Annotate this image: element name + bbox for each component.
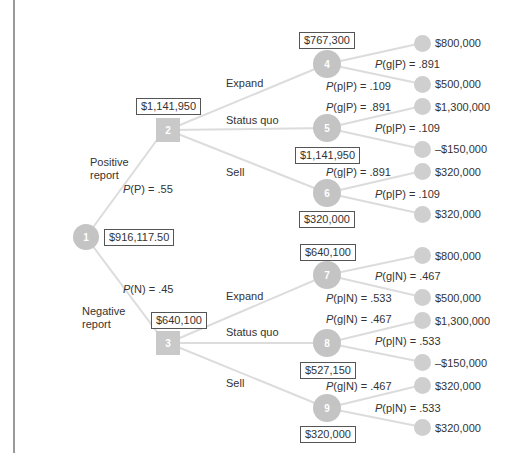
prob-good: P(g|N) = .467: [326, 380, 392, 393]
terminal-node: [414, 206, 431, 223]
payoff-label: $1,300,000: [435, 315, 490, 328]
payoff-label: $320,000: [435, 380, 481, 393]
node-number: 4: [324, 59, 330, 70]
terminal-node: [414, 289, 431, 306]
chance-node-9: 9: [313, 394, 341, 422]
terminal-node: [414, 163, 431, 180]
prob-good: P(g|P) = .891: [326, 166, 391, 179]
ev-box-node-7: $640,100: [300, 244, 356, 261]
prob-poor: P(p|N) = .533: [375, 335, 441, 348]
terminal-node: [414, 354, 431, 371]
node-number: 1: [83, 232, 89, 243]
payoff-label: $800,000: [435, 250, 481, 263]
ev-box-node-3: $640,100: [151, 312, 207, 329]
node-number: 2: [165, 125, 171, 136]
prob-poor: P(p|P) = .109: [375, 188, 440, 201]
payoff-label: $1,300,000: [435, 101, 490, 114]
node-number: 3: [165, 338, 171, 349]
terminal-node: [414, 98, 431, 115]
payoff-label: –$150,000: [435, 357, 487, 370]
positive-report-label: Positive report: [90, 156, 129, 182]
chance-node-7: 7: [313, 261, 341, 289]
payoff-label: $320,000: [435, 422, 481, 435]
node-number: 6: [324, 188, 330, 199]
action-status-quo-label: Status quo: [226, 114, 279, 127]
ev-box-node-1: $916,117.50: [104, 229, 174, 246]
prob-poor: P(p|N) = .533: [375, 402, 441, 415]
action-expand-label: Expand: [226, 290, 263, 303]
terminal-node: [414, 377, 431, 394]
action-expand-label: Expand: [226, 77, 263, 90]
payoff-label: $500,000: [435, 78, 481, 91]
ev-box-node-5: $1,141,950: [295, 147, 360, 164]
terminal-node: [414, 247, 431, 264]
terminal-node: [414, 312, 431, 329]
decision-node-2: 2: [156, 118, 180, 142]
terminal-node: [414, 76, 431, 93]
ev-box-node-6: $320,000: [299, 211, 355, 228]
prob-poor: P(p|N) = .533: [326, 292, 392, 305]
payoff-label: $500,000: [435, 292, 481, 305]
prob-negative: P(N) = .45: [123, 283, 173, 296]
ev-box-node-4: $767,300: [299, 32, 355, 49]
chance-node-5: 5: [313, 114, 341, 142]
prob-good: P(g|N) = .467: [375, 270, 441, 283]
prob-good: P(g|N) = .467: [326, 313, 392, 326]
node-number: 8: [324, 338, 330, 349]
chance-node-6: 6: [313, 179, 341, 207]
terminal-node: [414, 419, 431, 436]
action-status-quo-label: Status quo: [226, 326, 279, 339]
node-number: 5: [324, 123, 330, 134]
prob-good: P(g|P) = .891: [326, 101, 391, 114]
terminal-node: [414, 141, 431, 158]
prob-positive: P(P) = .55: [123, 183, 173, 196]
decision-node-3: 3: [156, 331, 180, 355]
negative-report-label: Negative report: [82, 305, 125, 331]
ev-box-node-8: $527,150: [300, 362, 356, 379]
node-number: 7: [324, 270, 330, 281]
terminal-node: [414, 35, 431, 52]
ev-box-node-2: $1,141,950: [136, 98, 201, 115]
node-number: 9: [324, 403, 330, 414]
chance-node-8: 8: [313, 329, 341, 357]
payoff-label: –$150,000: [435, 143, 487, 156]
payoff-label: $320,000: [435, 208, 481, 221]
chance-node-4: 4: [313, 50, 341, 78]
prob-poor: P(p|P) = .109: [326, 80, 391, 93]
action-sell-label: Sell: [226, 166, 244, 179]
prob-good: P(g|P) = .891: [375, 58, 440, 71]
payoff-label: $320,000: [435, 166, 481, 179]
action-sell-label: Sell: [226, 377, 244, 390]
ev-box-node-9: $320,000: [300, 426, 356, 443]
payoff-label: $800,000: [435, 37, 481, 50]
prob-poor: P(p|P) = .109: [375, 122, 440, 135]
chance-node-1: 1: [73, 224, 99, 250]
